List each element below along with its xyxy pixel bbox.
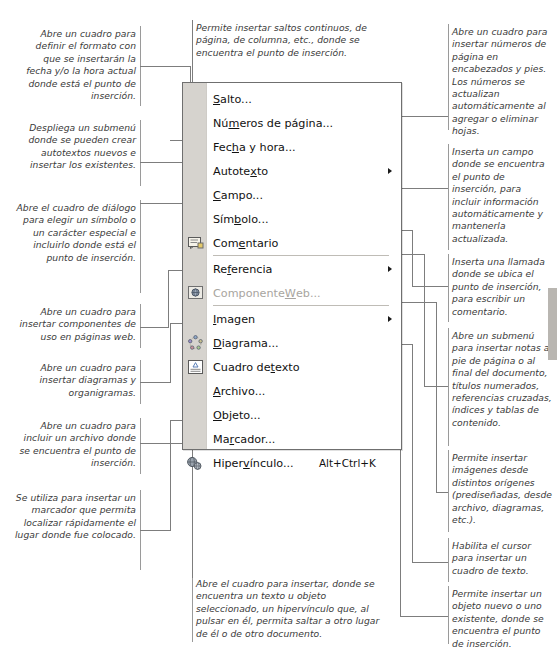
page-edge-strip bbox=[548, 288, 557, 360]
menu-item-autotexto[interactable]: Autotexto bbox=[183, 159, 401, 183]
annotation-referencia: Abre un submenú para insertar notas a pi… bbox=[452, 330, 554, 429]
leader-diagrama-v bbox=[170, 323, 171, 383]
annotation-archivo: Abre un cuadro para incluir un archivo d… bbox=[14, 420, 136, 470]
annotation-bar-numeros-pagina bbox=[448, 24, 449, 130]
menu-item-imagen[interactable]: Imagen bbox=[183, 307, 401, 331]
menu-item-archivo[interactable]: Archivo... bbox=[183, 379, 401, 403]
leader-compweb-h1 bbox=[140, 327, 168, 328]
menu-item-fecha-y-hora[interactable]: Fecha y hora... bbox=[183, 135, 401, 159]
annotation-numeros-pagina: Abre un cuadro para insertar números de … bbox=[452, 26, 552, 138]
leader-diagrama-h1 bbox=[140, 382, 170, 383]
menu-item-cuadro-de-texto[interactable]: Cuadro de texto bbox=[183, 355, 401, 379]
annotation-bar-autotexto bbox=[140, 120, 141, 186]
comment-icon bbox=[185, 233, 205, 253]
menu-item-objeto[interactable]: Objeto... bbox=[183, 403, 401, 427]
web-component-icon bbox=[185, 283, 205, 303]
menu-item-diagrama[interactable]: Diagrama... bbox=[183, 331, 401, 355]
diagram-icon bbox=[185, 333, 205, 353]
leader-referencia-v bbox=[424, 254, 425, 386]
annotation-bar-imagen bbox=[448, 450, 449, 532]
annotation-componente-web: Abre un cuadro para insertar componentes… bbox=[14, 306, 136, 343]
annotation-salto: Permite insertar saltos continuos, de pá… bbox=[196, 22, 381, 59]
annotation-bar-comentario bbox=[448, 254, 449, 322]
menu-item-referencia-label: Referencia bbox=[213, 257, 272, 281]
leader-marcador-h bbox=[140, 530, 170, 531]
leader-imagen-v bbox=[436, 302, 437, 492]
leader-imagen-h1 bbox=[396, 302, 436, 303]
menu-item-archivo-label: Archivo... bbox=[213, 379, 265, 403]
menu-item-componente-web-label: Componente Web... bbox=[213, 281, 321, 305]
menu-item-campo[interactable]: Campo... bbox=[183, 183, 401, 207]
menu-separator-2 bbox=[213, 305, 389, 306]
annotation-marcador: Se utiliza para insertar un marcador que… bbox=[14, 492, 136, 542]
annotation-bar-campo bbox=[448, 144, 449, 250]
leader-comentario-v bbox=[412, 230, 413, 286]
annotation-bar-simbolo bbox=[140, 200, 141, 293]
leader-imagen-h2 bbox=[436, 492, 448, 493]
annotation-objeto: Permite insertar un objeto nuevo o uno e… bbox=[452, 588, 552, 650]
leader-objeto-h2 bbox=[400, 616, 448, 617]
hyperlink-icon bbox=[185, 453, 205, 473]
menu-item-numeros-de-pagina[interactable]: Números de página... bbox=[183, 111, 401, 135]
annotation-diagrama: Abre un cuadro para insertar diagramas y… bbox=[14, 362, 136, 399]
annotation-campo: Inserta un campo donde se encuentra el p… bbox=[452, 146, 552, 245]
annotation-fecha-hora: Abre un cuadro para definir el formato c… bbox=[18, 28, 136, 102]
leader-cuadrotexto-v bbox=[412, 344, 413, 562]
insert-menu: Salto... Números de página... Fecha y ho… bbox=[182, 82, 402, 450]
annotation-bar-archivo bbox=[140, 418, 141, 474]
menu-item-autotexto-label: Autotexto bbox=[213, 159, 268, 183]
leader-compweb-v bbox=[168, 270, 169, 328]
menu-item-imagen-label: Imagen bbox=[213, 307, 255, 331]
annotation-imagen: Permite insertar imágenes desde distinto… bbox=[452, 452, 552, 526]
annotation-autotexto: Despliega un submenú donde se pueden cre… bbox=[18, 122, 136, 172]
menu-item-hipervinculo-label: Hipervínculo... bbox=[213, 451, 294, 475]
chevron-right-icon bbox=[388, 266, 392, 272]
menu-item-objeto-label: Objeto... bbox=[213, 403, 261, 427]
annotation-bar-hipervinculo bbox=[192, 576, 193, 642]
menu-separator-1 bbox=[213, 255, 389, 256]
menu-item-salto[interactable]: Salto... bbox=[183, 87, 401, 111]
menu-item-simbolo-label: Símbolo... bbox=[213, 207, 269, 231]
annotation-simbolo: Abre el cuadro de diálogo para elegir un… bbox=[14, 202, 136, 264]
annotation-bar-cuadro-texto bbox=[448, 538, 449, 582]
menu-item-campo-label: Campo... bbox=[213, 183, 263, 207]
textbox-icon bbox=[185, 357, 205, 377]
chevron-right-icon bbox=[388, 168, 392, 174]
menu-item-diagrama-label: Diagrama... bbox=[213, 331, 279, 355]
menu-item-comentario-label: Comentario bbox=[213, 231, 278, 255]
chevron-right-icon bbox=[388, 316, 392, 322]
menu-item-marcador[interactable]: Marcador... bbox=[183, 427, 401, 451]
menu-item-marcador-label: Marcador... bbox=[213, 427, 275, 451]
annotation-hipervinculo: Abre el cuadro para insertar, donde se e… bbox=[196, 578, 391, 640]
menu-item-hipervinculo-shortcut: Alt+Ctrl+K bbox=[319, 451, 376, 475]
annotation-comentario: Inserta una llamada donde se ubica el pu… bbox=[452, 256, 552, 318]
menu-item-salto-label: Salto... bbox=[213, 87, 252, 111]
annotation-cuadro-texto: Habilita el cursor para insertar un cuad… bbox=[452, 540, 552, 577]
annotation-bar-objeto bbox=[448, 586, 449, 644]
menu-item-referencia[interactable]: Referencia bbox=[183, 257, 401, 281]
annotation-bar-referencia bbox=[448, 328, 449, 446]
leader-marcador-v bbox=[170, 420, 171, 531]
menu-item-fecha-y-hora-label: Fecha y hora... bbox=[213, 135, 296, 159]
figure-canvas: Abre un cuadro para definir el formato c… bbox=[0, 0, 559, 652]
menu-item-comentario[interactable]: Comentario bbox=[183, 231, 401, 255]
menu-item-componente-web[interactable]: Componente Web... bbox=[183, 281, 401, 305]
menu-item-hipervinculo[interactable]: Hipervínculo... Alt+Ctrl+K bbox=[183, 451, 401, 475]
leader-comentario-h2 bbox=[412, 286, 448, 287]
leader-fecha-h1 bbox=[140, 66, 190, 67]
menu-item-numeros-de-pagina-label: Números de página... bbox=[213, 111, 333, 135]
annotation-bar-componente-web bbox=[140, 304, 141, 348]
menu-item-simbolo[interactable]: Símbolo... bbox=[183, 207, 401, 231]
menu-item-cuadro-de-texto-label: Cuadro de texto bbox=[213, 355, 300, 379]
leader-cuadrotexto-h2 bbox=[412, 562, 448, 563]
